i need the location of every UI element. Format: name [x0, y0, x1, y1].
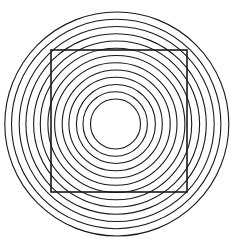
canvas-background	[0, 0, 234, 246]
concentric-circles-diagram	[0, 0, 234, 246]
figure-canvas	[0, 0, 234, 246]
